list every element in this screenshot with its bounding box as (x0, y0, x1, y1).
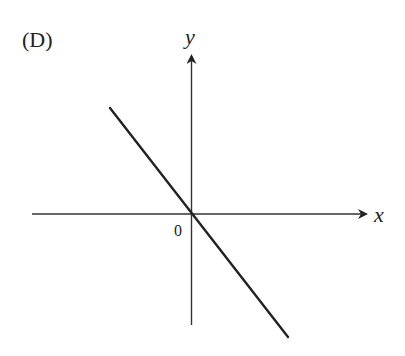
y-axis-label: y (183, 24, 195, 49)
origin-label: 0 (174, 222, 182, 239)
graph-figure: (D) x y 0 (0, 0, 405, 356)
panel-label: (D) (22, 27, 53, 52)
graph-svg: (D) x y 0 (0, 0, 405, 356)
plotted-line (110, 108, 288, 337)
x-axis-label: x (373, 202, 384, 227)
